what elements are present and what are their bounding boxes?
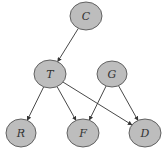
node-label: F [78,127,87,140]
node-d: D [129,119,161,147]
node-label: G [108,68,117,81]
edge-c-to-t [58,28,79,61]
edge-t-to-f [57,87,76,121]
node-r: R [6,119,36,147]
bayesian-network-diagram: CTGRFD [0,0,164,154]
node-t: T [34,60,66,88]
node-label: C [82,10,91,23]
node-label: D [140,127,150,140]
nodes-group: CTGRFD [6,2,161,147]
edge-g-to-f [89,86,106,120]
edge-t-to-r [27,87,43,120]
node-g: G [97,61,127,87]
node-c: C [70,2,102,30]
edge-g-to-d [119,86,138,121]
node-label: R [16,127,25,140]
node-f: F [67,119,99,147]
